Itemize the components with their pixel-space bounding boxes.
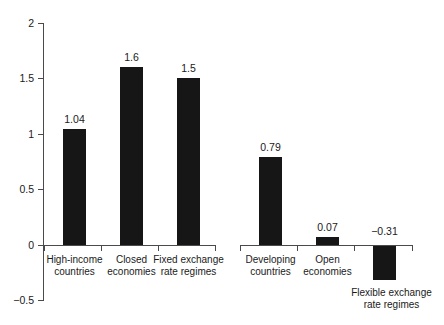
bar-flexible-exchange-rate-regimes — [373, 246, 396, 280]
bar-fixed-exchange-rate-regimes — [177, 78, 200, 245]
value-label-developing-countries: 0.79 — [240, 142, 301, 153]
right-panel-axis-cap-end — [412, 245, 413, 251]
y-tick-label-1: 1 — [0, 129, 34, 140]
value-label-open-economies: 0.07 — [297, 222, 358, 233]
y-tick-1.5 — [38, 78, 43, 79]
category-line-1: Flexible exchange — [339, 287, 444, 299]
y-tick-minus-0.5 — [38, 300, 43, 301]
y-tick-label-0: 0 — [0, 240, 34, 251]
value-label-fixed-exchange-rate-regimes: 1.5 — [158, 63, 219, 74]
category-line-2: rate regimes — [339, 299, 444, 311]
value-label-flexible-exchange-rate-regimes: −0.31 — [354, 226, 415, 237]
category-line-1: Fixed exchange — [146, 254, 231, 266]
left-panel-axis-cap-end — [215, 245, 216, 251]
left-panel-axis-cap-start — [44, 245, 45, 251]
category-line-1: Open — [285, 254, 370, 266]
right-panel-x-tick-2 — [354, 246, 355, 251]
right-panel-axis-cap-start — [240, 245, 241, 251]
right-panel-x-tick-1 — [297, 246, 298, 251]
y-tick-2 — [38, 23, 43, 24]
category-label-fixed-exchange-rate-regimes: Fixed exchange rate regimes — [146, 254, 231, 277]
y-tick-label-2: 2 — [0, 18, 34, 29]
category-line-2: economies — [285, 266, 370, 278]
y-tick-0.5 — [38, 189, 43, 190]
bar-open-economies — [316, 237, 339, 245]
y-tick-label-0.5: 0.5 — [0, 184, 34, 195]
left-panel-x-tick-2 — [158, 246, 159, 251]
category-label-flexible-exchange-rate-regimes: Flexible exchange rate regimes — [339, 287, 444, 310]
bar-developing-countries — [259, 157, 282, 245]
y-tick-0 — [38, 245, 43, 246]
category-line-2: rate regimes — [146, 266, 231, 278]
value-label-closed-economies: 1.6 — [101, 52, 162, 63]
y-tick-label-1.5: 1.5 — [0, 73, 34, 84]
y-tick-label-minus-0.5: −0.5 — [0, 295, 34, 306]
bar-chart: 2 1.5 1 0.5 0 −0.5 1.04 1.6 1.5 High-inc… — [0, 0, 444, 325]
bar-closed-economies — [120, 67, 143, 245]
value-label-high-income-countries: 1.04 — [44, 114, 105, 125]
left-panel-x-tick-1 — [101, 246, 102, 251]
bar-high-income-countries — [63, 129, 86, 245]
y-tick-1 — [38, 134, 43, 135]
category-label-open-economies: Open economies — [285, 254, 370, 277]
left-panel-axis — [44, 245, 216, 246]
